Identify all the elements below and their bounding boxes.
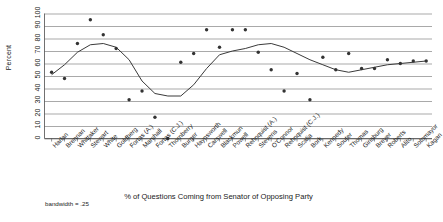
y-tick-label: 60 bbox=[33, 56, 40, 68]
data-point bbox=[153, 116, 156, 119]
data-point bbox=[269, 68, 272, 71]
data-point bbox=[295, 72, 298, 75]
data-point bbox=[282, 89, 285, 92]
data-point bbox=[50, 71, 53, 74]
y-tick-label: 20 bbox=[33, 106, 40, 118]
y-tick-label: 50 bbox=[33, 69, 40, 81]
data-point bbox=[399, 62, 402, 65]
data-point bbox=[76, 42, 79, 45]
data-point bbox=[360, 67, 363, 70]
bandwidth-annotation: bandwidth = .25 bbox=[45, 200, 89, 207]
data-point bbox=[127, 98, 130, 101]
data-point bbox=[102, 33, 105, 36]
data-point bbox=[412, 59, 415, 62]
data-point bbox=[308, 98, 311, 101]
data-point bbox=[386, 58, 389, 61]
y-axis-title: Percent bbox=[5, 28, 12, 88]
y-tick-label: 80 bbox=[33, 31, 40, 43]
data-point bbox=[373, 67, 376, 70]
data-point bbox=[114, 47, 117, 50]
data-point bbox=[140, 89, 143, 92]
data-point bbox=[231, 28, 234, 31]
data-point bbox=[244, 28, 247, 31]
y-tick-label: 100 bbox=[33, 6, 40, 18]
data-point bbox=[63, 77, 66, 80]
data-point bbox=[257, 51, 260, 54]
data-point bbox=[179, 61, 182, 64]
y-tick-label: 90 bbox=[33, 19, 40, 31]
data-point bbox=[347, 52, 350, 55]
data-point bbox=[205, 28, 208, 31]
y-tick-label: 0 bbox=[33, 131, 40, 143]
y-tick-label: 10 bbox=[33, 119, 40, 131]
data-point bbox=[89, 18, 92, 21]
y-tick-label: 40 bbox=[33, 81, 40, 93]
y-tick-label: 30 bbox=[33, 94, 40, 106]
data-point bbox=[192, 52, 195, 55]
data-point bbox=[334, 68, 337, 71]
y-tick-label: 70 bbox=[33, 44, 40, 56]
data-point bbox=[424, 59, 427, 62]
data-point bbox=[218, 46, 221, 49]
data-point bbox=[321, 56, 324, 59]
